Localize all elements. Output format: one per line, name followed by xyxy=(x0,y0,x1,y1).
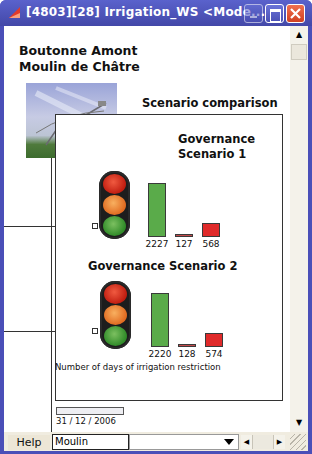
vertical-scrollbar[interactable]: ▲ ▼ xyxy=(290,26,308,432)
value-label: 2220 xyxy=(145,349,175,359)
scroll-right-button[interactable]: ▶ xyxy=(273,435,285,449)
minimize-button[interactable] xyxy=(244,4,263,23)
section-title: Scenario comparison xyxy=(142,96,278,110)
combo-dropdown[interactable] xyxy=(129,434,239,450)
value-label: 574 xyxy=(199,349,229,359)
window-title: [4803][28] Irrigation_WS <Mode... xyxy=(26,5,265,19)
bar-red xyxy=(205,333,223,347)
scenario-1-title-line-2: Scenario 1 xyxy=(178,147,255,162)
heading-line-2: Moulin de Châtre xyxy=(19,59,140,75)
amber-lamp xyxy=(103,195,126,215)
scenario-1-title: Governance Scenario 1 xyxy=(178,132,255,162)
scroll-left-button[interactable]: ◀ xyxy=(241,435,253,449)
bar-green xyxy=(151,293,169,347)
bar-red xyxy=(202,223,220,237)
scenario-1-title-line-1: Governance xyxy=(178,132,255,147)
status-bar: Help Moulin ◀ ▶ xyxy=(4,432,308,451)
client-area: Boutonne Amont Moulin de Châtre Scenario… xyxy=(4,26,308,451)
traffic-light-icon xyxy=(99,171,130,239)
value-label: 568 xyxy=(196,239,226,249)
connector-node[interactable] xyxy=(92,328,98,334)
connector-line xyxy=(51,158,52,451)
value-label: 128 xyxy=(172,349,202,359)
red-lamp xyxy=(103,174,126,194)
value-label: 2227 xyxy=(142,239,172,249)
app-icon xyxy=(8,6,21,19)
heading-line-1: Boutonne Amont xyxy=(19,43,140,59)
location-heading: Boutonne Amont Moulin de Châtre xyxy=(19,43,140,75)
chevron-down-icon[interactable] xyxy=(224,439,234,445)
resize-grip-icon[interactable] xyxy=(290,434,306,450)
bar-green xyxy=(148,183,166,237)
maximize-button[interactable] xyxy=(265,4,284,23)
close-button[interactable] xyxy=(286,4,305,23)
scroll-thumb[interactable] xyxy=(291,44,307,60)
connector-node[interactable] xyxy=(92,223,98,229)
app-window: [4803][28] Irrigation_WS <Mode... Bouton… xyxy=(0,0,312,454)
green-lamp xyxy=(104,326,127,346)
horizontal-scroll-track[interactable] xyxy=(253,435,273,449)
name-input[interactable]: Moulin xyxy=(52,434,129,450)
traffic-light-icon xyxy=(100,281,131,349)
help-button[interactable]: Help xyxy=(8,435,50,450)
scroll-up-button[interactable]: ▲ xyxy=(290,26,308,44)
simulation-date: 31 / 12 / 2006 xyxy=(56,416,116,426)
amber-lamp xyxy=(104,305,127,325)
value-label: 127 xyxy=(169,239,199,249)
chart-caption: Number of days of irrigation restriction xyxy=(55,362,221,372)
bar-brown xyxy=(175,234,193,237)
progress-bar xyxy=(56,407,124,415)
green-lamp xyxy=(103,216,126,236)
scroll-down-button[interactable]: ▼ xyxy=(290,414,308,432)
title-bar[interactable]: [4803][28] Irrigation_WS <Mode... xyxy=(0,0,312,26)
bar-brown xyxy=(178,344,196,347)
red-lamp xyxy=(104,284,127,304)
close-icon xyxy=(290,8,301,19)
scenario-2-title: Governance Scenario 2 xyxy=(88,259,237,273)
